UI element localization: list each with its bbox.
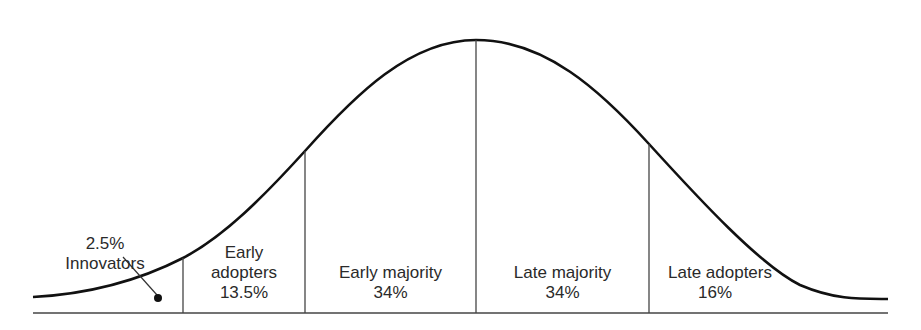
- early-adopters-label: Early adopters 13.5%: [190, 243, 298, 303]
- bell-curve: [33, 40, 888, 299]
- innovators-pointer-dot: [154, 294, 162, 302]
- late-adopters-label: Late adopters 16%: [650, 263, 790, 303]
- early-majority-label: Early majority 34%: [305, 263, 476, 303]
- innovators-label: 2.5% Innovators: [50, 234, 160, 274]
- late-majority-label: Late majority 34%: [476, 263, 649, 303]
